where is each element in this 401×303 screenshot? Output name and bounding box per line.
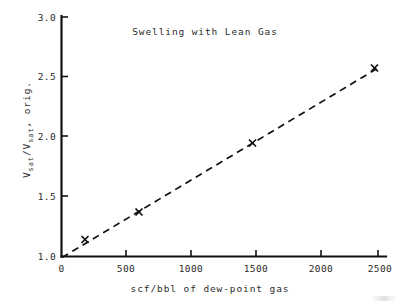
y-tick-label-1-0: 1.0	[38, 251, 56, 262]
x-tick-label-2000: 2000	[309, 263, 333, 274]
y-axis-title-group: Vsat/Vsat, orig.	[21, 81, 35, 178]
y-tick-label-2-0: 2.0	[38, 131, 56, 142]
y-tick-label-3-0: 3.0	[38, 12, 56, 23]
axes-group	[62, 16, 387, 257]
y-axis-title-tail: , orig.	[21, 81, 32, 127]
x-axis-title: scf/bbl of dew-point gas	[131, 283, 290, 294]
chart-canvas: 3.0 2.5 2.0 1.5 1.0 0 500 1000 1500 2000…	[0, 0, 401, 303]
y-tick-label-1-5: 1.5	[38, 191, 56, 202]
x-tick-label-1500: 1500	[244, 263, 268, 274]
y-axis-title-sub2: sat	[27, 127, 35, 142]
trend-line	[62, 68, 378, 258]
data-point-1	[82, 236, 89, 243]
x-tick-labels: 0 500 1000 1500 2000 2500	[58, 263, 392, 274]
scan-artifact	[371, 296, 397, 301]
data-point-3	[249, 140, 256, 147]
figure-container: 3.0 2.5 2.0 1.5 1.0 0 500 1000 1500 2000…	[0, 0, 401, 303]
y-axis-title-slash: /	[21, 149, 32, 156]
x-tick-label-500: 500	[117, 263, 135, 274]
y-axis-title: Vsat/Vsat, orig.	[21, 81, 35, 178]
y-axis-title-v2: V	[21, 143, 32, 150]
x-tick-label-1000: 1000	[179, 263, 203, 274]
data-markers	[82, 65, 379, 244]
chart-title: Swelling with Lean Gas	[132, 26, 278, 37]
y-axis-title-v1: V	[21, 171, 32, 178]
x-tick-label-2500: 2500	[368, 263, 392, 274]
x-tick-label-0: 0	[58, 263, 64, 274]
y-tick-label-2-5: 2.5	[38, 71, 56, 82]
y-tick-labels: 3.0 2.5 2.0 1.5 1.0	[38, 12, 56, 262]
y-axis-title-sub1: sat	[27, 156, 35, 171]
